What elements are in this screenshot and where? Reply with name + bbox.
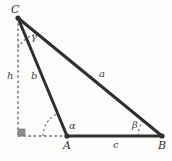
- angle-label-alpha: α: [69, 121, 76, 131]
- triangle-diagram-svg: [0, 0, 172, 161]
- angle-label-gamma: γ: [31, 32, 37, 42]
- side-label-c: c: [113, 140, 119, 150]
- right-angle-marker: [18, 129, 25, 136]
- vertex-dot-B: [159, 133, 164, 138]
- geometry-figure: C A B a b c h α β γ: [0, 0, 172, 161]
- side-a-line: [18, 18, 162, 136]
- side-label-b: b: [31, 71, 37, 81]
- angle-arc-alpha: [43, 114, 57, 136]
- vertex-label-A: A: [63, 140, 71, 151]
- vertex-dot-A: [64, 133, 69, 138]
- side-b-line: [18, 18, 67, 136]
- vertex-dot-C: [15, 15, 20, 20]
- side-label-h: h: [7, 71, 13, 81]
- vertex-label-B: B: [158, 140, 166, 151]
- side-label-a: a: [99, 69, 105, 79]
- angle-label-beta: β: [132, 120, 138, 130]
- vertex-label-C: C: [11, 4, 19, 15]
